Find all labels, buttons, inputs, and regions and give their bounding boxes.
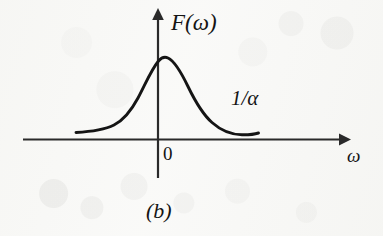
x-axis-arrowhead [339, 134, 351, 146]
origin-label: 0 [163, 144, 173, 163]
figure-container: F(ω) 1/α 0 ω (b) [0, 0, 383, 236]
figure-caption: (b) [146, 200, 172, 222]
x-axis [23, 134, 351, 146]
x-axis-label: ω [347, 146, 360, 165]
fourier-transform-plot [0, 0, 383, 236]
curve-width-annotation: 1/α [231, 88, 258, 109]
y-axis-label: F(ω) [171, 11, 217, 34]
y-axis-arrowhead [152, 8, 164, 20]
